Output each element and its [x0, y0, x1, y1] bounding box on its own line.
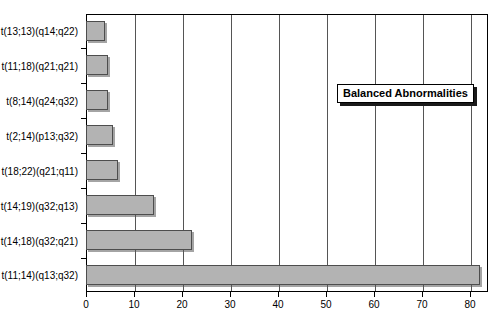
- bar-t14-19[interactable]: [86, 195, 154, 215]
- y-axis-label-6: t(14;18)(q32;q21): [1, 236, 78, 247]
- y-axis-label-3: t(2;14)(p13;q32): [6, 131, 78, 142]
- bar-row: [86, 223, 488, 258]
- x-axis-ticklabel-6: 60: [368, 299, 379, 310]
- y-axis-label-4: t(18;22)(q21;q11): [1, 166, 78, 177]
- y-axis-labels: t(13;13)(q14;q22) t(11;18)(q21;q21) t(8;…: [0, 14, 82, 292]
- bar-row: [86, 48, 488, 83]
- x-axis-ticklabel-5: 50: [320, 299, 331, 310]
- x-axis-ticklabel-4: 40: [272, 299, 283, 310]
- bar-chart: t(13;13)(q14;q22) t(11;18)(q21;q21) t(8;…: [0, 0, 498, 321]
- bar-t2-14[interactable]: [86, 125, 113, 145]
- x-axis-ticklabel-1: 10: [128, 299, 139, 310]
- y-axis-tick: [81, 258, 86, 259]
- x-axis-ticklabel-0: 0: [83, 299, 89, 310]
- x-axis-tick: [278, 292, 279, 297]
- bar-t11-18[interactable]: [86, 55, 108, 75]
- y-axis-tick: [81, 48, 86, 49]
- x-axis-ticklabel-2: 20: [176, 299, 187, 310]
- x-axis-ticklabel-8: 80: [464, 299, 475, 310]
- x-axis-tick: [422, 292, 423, 297]
- y-axis-label-2: t(8;14)(q24;q32): [6, 96, 78, 107]
- x-axis-ticklabel-3: 30: [224, 299, 235, 310]
- x-axis-tick: [470, 292, 471, 297]
- bar-row: [86, 258, 488, 292]
- bar-row: [86, 118, 488, 153]
- bar-row: [86, 188, 488, 223]
- y-axis-tick: [81, 118, 86, 119]
- legend: Balanced Abnormalities: [337, 84, 474, 103]
- x-axis-tick: [326, 292, 327, 297]
- bar-row: [86, 14, 488, 48]
- bars-layer: [86, 14, 488, 292]
- bar-t11-14[interactable]: [86, 265, 480, 285]
- y-axis-label-5: t(14;19)(q32;q13): [1, 201, 78, 212]
- bar-row: [86, 153, 488, 188]
- y-axis-label-0: t(13;13)(q14;q22): [1, 26, 78, 37]
- x-axis-ticklabel-7: 70: [416, 299, 427, 310]
- bar-t8-14[interactable]: [86, 90, 108, 110]
- bar-t13-13[interactable]: [86, 21, 105, 41]
- y-axis-tick: [81, 223, 86, 224]
- bar-t14-18[interactable]: [86, 230, 192, 250]
- x-axis-tick: [134, 292, 135, 297]
- bar-t18-22[interactable]: [86, 160, 118, 180]
- x-axis-tick: [374, 292, 375, 297]
- y-axis-tick: [81, 188, 86, 189]
- y-axis-label-7: t(11;14)(q13;q32): [1, 270, 78, 281]
- y-axis-label-1: t(11;18)(q21;q21): [1, 61, 78, 72]
- x-axis-tick: [230, 292, 231, 297]
- x-axis-tick: [182, 292, 183, 297]
- y-axis-tick: [81, 83, 86, 84]
- y-axis-tick: [81, 153, 86, 154]
- legend-label: Balanced Abnormalities: [343, 87, 468, 99]
- x-axis-tick: [86, 292, 87, 297]
